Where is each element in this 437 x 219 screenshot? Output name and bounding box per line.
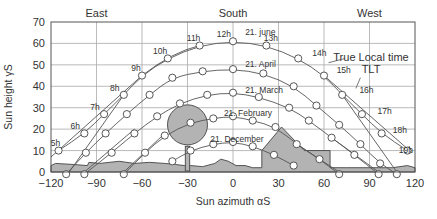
y-axis-label: Sun height γS (2, 64, 14, 129)
hour-marker (313, 102, 320, 109)
hour-marker (176, 100, 183, 107)
y-tick-label: 30 (33, 102, 45, 114)
hour-marker (169, 74, 176, 81)
y-tick-label: 50 (33, 59, 45, 71)
hour-marker (161, 132, 168, 139)
hour-label: 12h (217, 29, 231, 39)
hour-label: 16h (359, 85, 373, 95)
y-tick-label: 20 (33, 123, 45, 135)
x-tick-label: 30 (272, 177, 284, 189)
hour-marker (123, 111, 130, 118)
hour-label: 14h (312, 48, 326, 58)
direction-label: South (219, 7, 248, 19)
hour-marker (187, 119, 194, 126)
y-tick-label: 60 (33, 37, 45, 49)
hour-label: 19h (399, 145, 413, 155)
hour-label: 5h (51, 138, 61, 148)
hour-marker (357, 141, 364, 148)
date-label: 21. December (210, 134, 264, 144)
hour-marker (229, 89, 236, 96)
hour-marker (293, 141, 300, 148)
y-tick-label: 10 (33, 145, 45, 157)
hour-marker (120, 91, 127, 98)
hour-marker (351, 151, 358, 158)
x-tick-label: 90 (363, 177, 375, 189)
hour-marker (305, 117, 312, 124)
hour-label: 10h (153, 46, 167, 56)
hour-marker (272, 123, 279, 130)
hour-marker (229, 66, 236, 73)
y-tick-label: 70 (33, 16, 45, 28)
date-label: 21. February (224, 108, 273, 118)
x-tick-label: −120 (39, 177, 64, 189)
hour-marker (270, 151, 277, 158)
hour-marker (199, 68, 206, 75)
direction-label: East (85, 7, 107, 19)
hour-marker (328, 134, 335, 141)
x-axis-label: Sun azimuth αS (196, 195, 270, 207)
x-tick-label: −30 (178, 177, 197, 189)
date-label: 21. june (245, 27, 276, 37)
x-tick-label: −60 (133, 177, 152, 189)
annotation-line2: TLT (362, 63, 381, 75)
hour-label: 9h (131, 63, 141, 73)
hour-marker (260, 70, 267, 77)
date-label: 21. April (245, 59, 276, 69)
hour-marker (204, 91, 211, 98)
hour-marker (100, 111, 107, 118)
hour-marker (146, 91, 153, 98)
hour-marker (108, 149, 115, 156)
hour-marker (290, 162, 297, 169)
hour-marker (81, 130, 88, 137)
direction-label: West (357, 7, 382, 19)
hour-label: 17h (378, 106, 392, 116)
hour-label: 8h (110, 83, 120, 93)
y-tick-label: 0 (39, 166, 45, 178)
hour-marker (339, 91, 346, 98)
hour-label: 7h (90, 102, 100, 112)
hour-marker (320, 72, 327, 79)
hour-marker (290, 83, 297, 90)
hour-marker (169, 158, 176, 165)
hour-marker (102, 130, 109, 137)
x-tick-label: 0 (230, 177, 236, 189)
x-tick-label: −90 (87, 177, 106, 189)
hour-marker (295, 55, 302, 62)
hour-marker (154, 113, 161, 120)
hour-label: 11h (187, 33, 201, 43)
hour-label: 6h (71, 121, 81, 131)
hour-marker (378, 130, 385, 137)
hour-marker (210, 115, 217, 122)
x-tick-label: 120 (406, 177, 424, 189)
y-tick-label: 40 (33, 80, 45, 92)
hour-marker (377, 160, 384, 167)
date-label: 21. March (245, 85, 283, 95)
hour-marker (82, 149, 89, 156)
sun-path-chart: 5h6h7h8h9h10h11h12h13h14h15h16h17h18h19h… (0, 0, 437, 219)
hour-marker (286, 104, 293, 111)
hour-marker (131, 130, 138, 137)
x-tick-label: 60 (318, 177, 330, 189)
hour-marker (336, 121, 343, 128)
hour-marker (141, 149, 148, 156)
hour-marker (316, 156, 323, 163)
hour-label: 18h (393, 125, 407, 135)
hour-label: 15h (337, 65, 351, 75)
annotation-line1: True Local time (333, 51, 408, 63)
hour-marker (187, 147, 194, 154)
hour-marker (358, 111, 365, 118)
